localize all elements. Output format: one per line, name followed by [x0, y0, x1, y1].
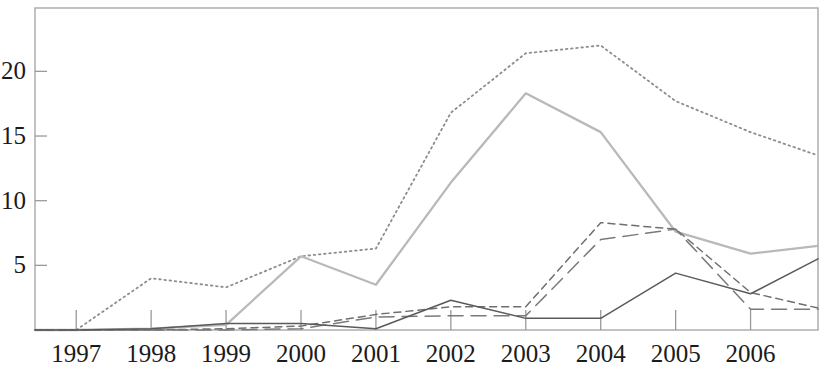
series-dotted [35, 46, 818, 331]
x-tick-label: 2005 [636, 341, 716, 366]
x-tick-label: 2004 [561, 341, 641, 366]
x-tick-label: 2001 [336, 341, 416, 366]
y-tick-label: 20 [1, 58, 26, 83]
axis-ticks [35, 71, 751, 330]
y-tick-label: 10 [1, 188, 26, 213]
x-tick-label: 2006 [711, 341, 791, 366]
line-chart-figure: 2015105 19971998199920002001200220032004… [0, 0, 825, 369]
y-tick-label: 15 [1, 123, 26, 148]
y-tick-label: 5 [14, 252, 27, 277]
series-light-gray [35, 93, 818, 330]
x-tick-label: 1999 [186, 341, 266, 366]
x-tick-label: 2002 [411, 341, 491, 366]
x-tick-label: 2000 [261, 341, 341, 366]
x-tick-label: 1997 [36, 341, 116, 366]
plot-frame [35, 8, 818, 330]
data-series-group [35, 46, 818, 331]
x-tick-label: 2003 [486, 341, 566, 366]
series-solid-dark [35, 259, 818, 330]
x-tick-label: 1998 [111, 341, 191, 366]
plot-area [0, 0, 825, 369]
axis-frame [35, 8, 818, 330]
